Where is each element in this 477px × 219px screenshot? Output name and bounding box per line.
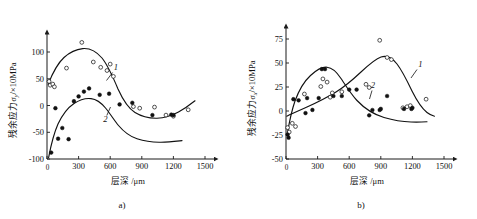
y-tick-label-0-a: 0 <box>40 102 44 111</box>
x-tick-label-0-b: 0 <box>285 164 289 172</box>
curve-label-2-a: 2 <box>103 114 108 124</box>
x-tick-label-900-a: 900 <box>136 162 149 171</box>
y-axis-title-a: 残余应力σy/×10MPa <box>7 62 19 137</box>
y-tick-label-75-b: 75 <box>275 35 283 44</box>
x-tick-label-600-a: 600 <box>104 162 117 171</box>
x-tick-label-1200-b: 1200 <box>404 162 421 171</box>
series-2-points-b <box>286 67 415 139</box>
x-tick-label-600-b: 600 <box>343 162 356 171</box>
x-tick-label-300-b: 300 <box>311 162 324 171</box>
y-tick-label-neg50-a: -50 <box>33 128 44 137</box>
leader-line-2-b <box>370 91 373 100</box>
y-axis-title-unit-b: /×10MPa <box>247 60 257 92</box>
y-tick-label-neg50-b: -50 <box>272 155 283 164</box>
fit-curve-2-a <box>49 98 182 157</box>
chart-panel-a: 0 300 600 900 1200 1500 100 50 0 -50 -10… <box>0 0 238 219</box>
leader-line-1-b <box>411 70 417 79</box>
fit-curve-2-b <box>287 67 427 133</box>
x-axis-title-a: 层深/μm <box>111 176 145 186</box>
x-tick-label-300-a: 300 <box>72 162 85 171</box>
svg-text:残余应力σy/×10MPa: 残余应力σy/×10MPa <box>7 62 19 137</box>
x-axis-title-b: 层深/μm <box>350 176 384 186</box>
svg-text:层深/μm: 层深/μm <box>111 176 145 186</box>
svg-text:层深/μm: 层深/μm <box>350 176 384 186</box>
x-axis-title-cn-a: 层深 <box>111 176 129 186</box>
curve-label-1-a: 1 <box>114 62 118 72</box>
x-tick-label-1200-a: 1200 <box>165 162 182 171</box>
panel-caption-b: b) <box>357 200 365 210</box>
series-1-points-a <box>47 41 190 119</box>
panel-caption-a: a) <box>119 200 126 210</box>
x-axis-title-unit-b: /μm <box>370 176 384 186</box>
y-axis-title-unit-a: /×10MPa <box>8 62 18 94</box>
y-tick-label-100-a: 100 <box>31 48 44 57</box>
series-2-points-a <box>49 87 175 155</box>
curve-label-1-b: 1 <box>418 59 422 69</box>
y-tick-label-25-b: 25 <box>275 83 283 92</box>
curve-label-2-b: 2 <box>371 80 376 90</box>
figure-container: 0 300 600 900 1200 1500 100 50 0 -50 -10… <box>0 0 477 219</box>
x-tick-label-0-a: 0 <box>46 164 50 172</box>
svg-text:残余应力σx/×10MPa: 残余应力σx/×10MPa <box>246 60 258 135</box>
y-tick-label-0-b: 0 <box>279 107 283 116</box>
series-1-points-b <box>286 38 428 134</box>
x-axis-title-unit-a: /μm <box>131 176 145 186</box>
x-tick-label-900-b: 900 <box>375 162 388 171</box>
y-axis-title-cn-a: 残余应力 <box>7 102 18 138</box>
x-tick-label-1500-a: 1500 <box>197 162 214 171</box>
y-axis-title-cn-b: 残余应力 <box>246 100 257 136</box>
x-axis-title-cn-b: 层深 <box>350 176 368 186</box>
x-tick-label-1500-b: 1500 <box>436 162 453 171</box>
fit-curve-1-a <box>48 49 195 119</box>
chart-panel-b: 0 300 600 900 1200 1500 75 50 25 0 -25 -… <box>239 0 477 219</box>
y-tick-label-neg100-a: -100 <box>29 155 44 164</box>
y-tick-label-50-b: 50 <box>275 59 283 68</box>
y-tick-label-50-a: 50 <box>36 75 44 84</box>
y-axis-title-b: 残余应力σx/×10MPa <box>246 60 258 135</box>
y-tick-label-neg25-b: -25 <box>272 131 283 140</box>
